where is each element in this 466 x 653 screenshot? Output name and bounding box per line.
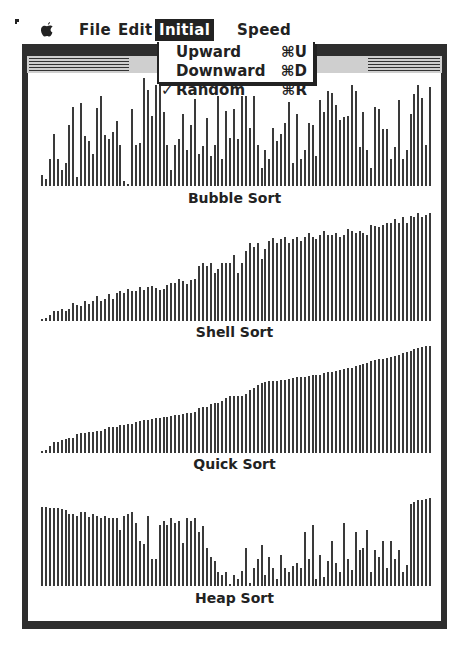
bar <box>76 434 78 453</box>
bar <box>382 541 384 586</box>
menu-item-upward[interactable]: Upward ⌘U <box>159 43 313 62</box>
bar <box>229 138 231 186</box>
bar <box>425 499 427 586</box>
bar <box>284 237 286 321</box>
bar <box>68 514 70 586</box>
bar <box>386 223 388 321</box>
bar <box>61 440 63 453</box>
bar <box>366 363 368 453</box>
bar <box>131 291 133 321</box>
bar <box>76 177 78 186</box>
bar <box>135 523 137 586</box>
bar <box>182 543 184 586</box>
bar <box>194 99 196 186</box>
bar <box>370 225 372 321</box>
bar <box>159 418 161 453</box>
bar <box>174 523 176 586</box>
bar <box>182 414 184 453</box>
menu-speed[interactable]: Speed <box>233 19 295 41</box>
bar <box>147 420 149 453</box>
bar <box>123 425 125 453</box>
bar <box>343 117 345 186</box>
bar <box>296 563 298 586</box>
menu-item-random[interactable]: ✓ Random ⌘R <box>159 81 313 100</box>
bar <box>335 233 337 321</box>
bar <box>386 568 388 586</box>
bar <box>202 146 204 186</box>
menu-item-label: Random <box>176 81 245 100</box>
bar <box>96 431 98 453</box>
bar <box>143 290 145 321</box>
bar <box>127 424 129 453</box>
bar <box>413 502 415 586</box>
bar <box>378 227 380 321</box>
bar <box>272 381 274 453</box>
bar <box>410 351 412 453</box>
bar <box>182 114 184 186</box>
bar <box>300 159 302 186</box>
menu-item-label: Upward <box>176 43 241 62</box>
bar <box>57 508 59 586</box>
bar <box>237 579 239 586</box>
bar <box>92 154 94 186</box>
bar <box>421 500 423 586</box>
bar <box>151 286 153 321</box>
apple-menu-icon[interactable] <box>38 21 56 39</box>
bar <box>390 159 392 186</box>
bar <box>366 150 368 186</box>
bar <box>374 107 376 186</box>
bar <box>198 266 200 321</box>
bar <box>394 356 396 453</box>
bar <box>359 365 361 453</box>
bar <box>292 566 294 586</box>
bar <box>49 159 51 186</box>
bar <box>245 96 247 186</box>
bar <box>249 128 251 186</box>
bar <box>112 518 114 586</box>
bar <box>378 109 380 186</box>
bar <box>339 120 341 186</box>
bar <box>65 439 67 453</box>
bar <box>406 223 408 321</box>
menu-initial[interactable]: Initial <box>155 19 214 41</box>
bar <box>155 85 157 186</box>
shortcut-label: ⌘D <box>281 62 307 81</box>
bar <box>155 418 157 453</box>
bar <box>225 263 227 321</box>
bar <box>339 370 341 453</box>
bar <box>272 238 274 321</box>
bar <box>178 415 180 453</box>
bar <box>116 518 118 586</box>
bar <box>100 518 102 586</box>
bar <box>41 175 43 186</box>
bar <box>166 525 168 586</box>
bar <box>390 357 392 453</box>
bar <box>257 559 259 586</box>
bar <box>288 379 290 453</box>
bar <box>217 96 219 186</box>
bar <box>413 217 415 321</box>
menu-file[interactable]: File <box>75 19 115 41</box>
bar <box>402 572 404 586</box>
heap-sort-label: Heap Sort <box>28 590 441 606</box>
bar <box>382 359 384 453</box>
bar <box>178 139 180 186</box>
bar <box>210 263 212 321</box>
bar <box>315 579 317 586</box>
bar <box>88 141 90 186</box>
bar <box>323 373 325 453</box>
menu-item-downward[interactable]: Downward ⌘D <box>159 62 313 81</box>
bar <box>233 575 235 586</box>
bar <box>151 116 153 186</box>
menu-edit[interactable]: Edit <box>114 19 157 41</box>
bar <box>135 422 137 453</box>
bar <box>163 417 165 453</box>
bar <box>174 415 176 453</box>
bar <box>327 235 329 321</box>
bar <box>80 433 82 453</box>
bar <box>413 94 415 186</box>
bar <box>147 516 149 586</box>
bar <box>53 311 55 321</box>
bar <box>217 269 219 321</box>
bar <box>284 123 286 186</box>
